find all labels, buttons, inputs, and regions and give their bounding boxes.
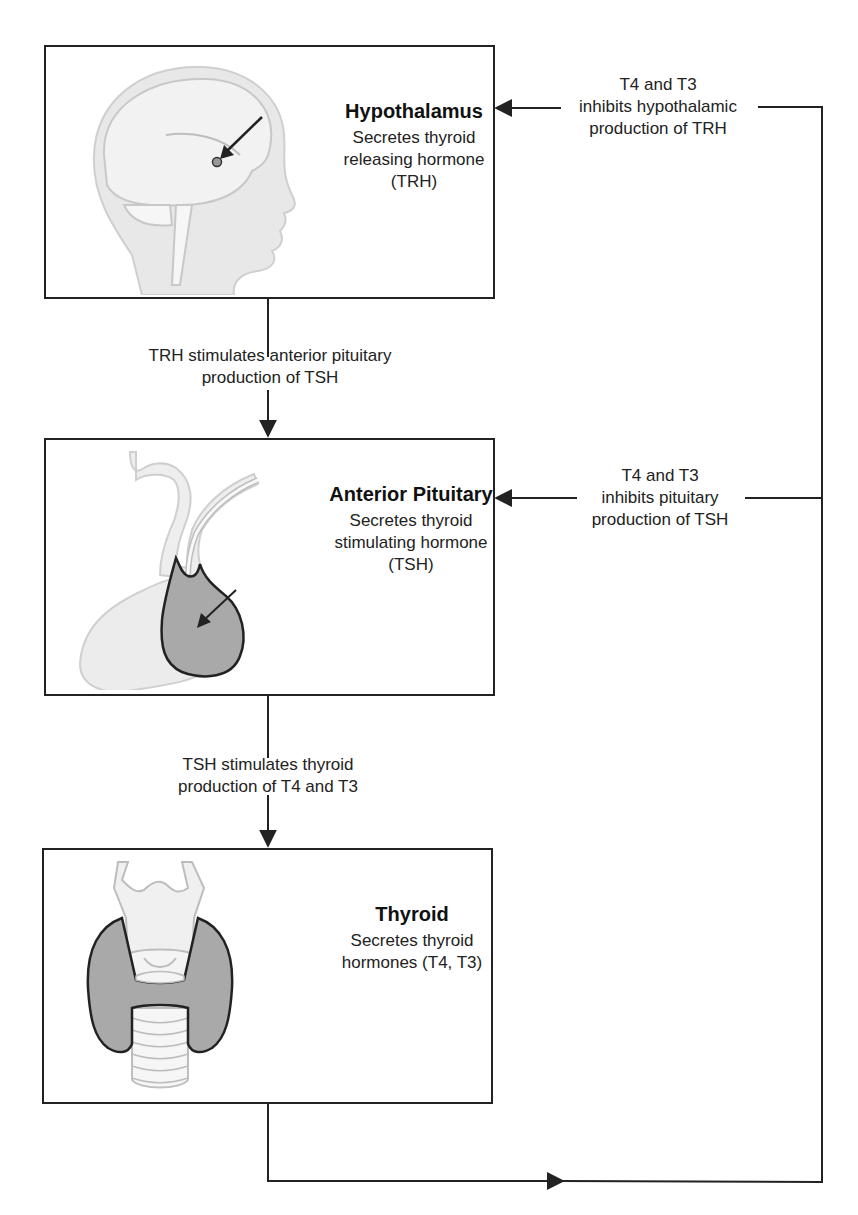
node-anterior-pituitary: Anterior Pituitary Secretes thyroid stim… — [44, 438, 495, 696]
node-thyroid: Thyroid Secretes thyroid hormones (T4, T… — [42, 848, 493, 1104]
edge-label-feedback-to-pituitary: T4 and T3 inhibits pituitary production … — [565, 465, 755, 531]
head-profile-icon — [72, 55, 302, 295]
edge-label-tsh-to-thyroid: TSH stimulates thyroid production of T4 … — [148, 754, 388, 798]
node-hypothalamus: Hypothalamus Secretes thyroid releasing … — [44, 45, 495, 299]
node-title: Anterior Pituitary — [296, 482, 526, 506]
node-description: Secretes thyroid releasing hormone (TRH) — [314, 127, 514, 193]
node-text: Hypothalamus Secretes thyroid releasing … — [314, 99, 514, 193]
node-description: Secretes thyroid hormones (T4, T3) — [312, 930, 512, 974]
pituitary-gland-icon — [64, 450, 304, 690]
edge-label-feedback-to-hypothalamus: T4 and T3 inhibits hypothalamic producti… — [548, 74, 768, 140]
node-title: Thyroid — [312, 902, 512, 926]
node-description: Secretes thyroid stimulating hormone (TS… — [296, 510, 526, 576]
edge-label-trh-to-pituitary: TRH stimulates anterior pituitary produc… — [100, 345, 440, 389]
node-title: Hypothalamus — [314, 99, 514, 123]
thyroid-gland-icon — [80, 858, 240, 1098]
diagram-canvas: Hypothalamus Secretes thyroid releasing … — [0, 0, 858, 1215]
node-text: Anterior Pituitary Secretes thyroid stim… — [296, 482, 526, 576]
node-text: Thyroid Secretes thyroid hormones (T4, T… — [312, 902, 512, 974]
